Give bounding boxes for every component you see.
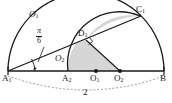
point-label-A2: A2 xyxy=(62,74,72,83)
length-label-2: 2 xyxy=(83,88,88,97)
point-label-O2: O2 xyxy=(114,74,124,83)
curve-label-O1: O1 xyxy=(29,10,39,19)
point-label-D1: D1 xyxy=(78,29,88,38)
point-label-B: B xyxy=(160,74,166,83)
angle-label-pi-over-6: π 6 xyxy=(36,27,42,45)
angle-leader-line xyxy=(38,47,44,62)
point-label-C1: C1 xyxy=(136,5,145,14)
curve-label-O2: O2 xyxy=(55,54,65,63)
point-label-O1: O1 xyxy=(90,74,100,83)
geometry-figure: A1 A2 O1 O2 B D1 C1 O1 O2 π 6 2 xyxy=(0,0,172,103)
point-label-A1: A1 xyxy=(2,74,12,83)
